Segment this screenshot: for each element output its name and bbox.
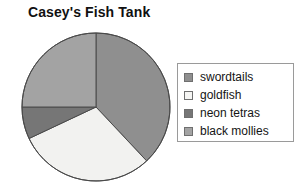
legend-item-swordtails: swordtails <box>184 68 293 86</box>
chart-title: Casey's Fish Tank <box>28 4 150 20</box>
pie-slice-group <box>22 33 170 181</box>
legend-item-goldfish: goldfish <box>184 86 293 104</box>
pie-chart-figure: Casey's Fish Tank swordtails goldfish ne… <box>0 0 308 188</box>
legend-item-black-mollies: black mollies <box>184 122 293 140</box>
legend-label-neon-tetras: neon tetras <box>200 107 260 119</box>
pie-svg <box>18 29 174 185</box>
legend-label-black-mollies: black mollies <box>200 125 269 137</box>
chart-legend: swordtails goldfish neon tetras black mo… <box>177 63 294 142</box>
pie-plot-area <box>18 29 174 185</box>
legend-swatch-swordtails <box>184 73 193 82</box>
pie-slice-black-mollies <box>22 33 96 107</box>
legend-swatch-neon-tetras <box>184 109 193 118</box>
legend-item-neon-tetras: neon tetras <box>184 104 293 122</box>
legend-swatch-goldfish <box>184 91 193 100</box>
legend-label-swordtails: swordtails <box>200 71 253 83</box>
legend-label-goldfish: goldfish <box>200 89 241 101</box>
legend-swatch-black-mollies <box>184 127 193 136</box>
